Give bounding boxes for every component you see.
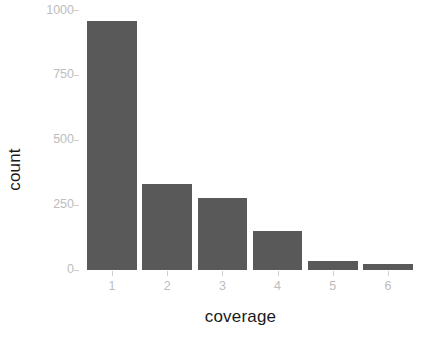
y-tick-label: 250 — [26, 197, 74, 213]
y-axis-title: count — [0, 0, 30, 339]
y-tick-label: 750 — [26, 67, 74, 83]
bar — [142, 184, 192, 270]
x-tick-mark — [222, 271, 223, 276]
x-axis-title: coverage — [60, 305, 421, 329]
plot-panel — [79, 8, 421, 270]
x-tick-label: 3 — [202, 279, 242, 293]
y-tick-label: 0 — [26, 262, 74, 278]
x-tick-mark — [278, 271, 279, 276]
bar-chart: count 02505007501000 123456 coverage — [0, 0, 429, 339]
bar — [363, 264, 413, 270]
x-axis-title-label: coverage — [205, 307, 277, 327]
x-tick-label: 5 — [313, 279, 353, 293]
x-tick-mark — [112, 271, 113, 276]
x-tick-label: 2 — [147, 279, 187, 293]
x-tick-label: 4 — [258, 279, 298, 293]
y-tick-label: 500 — [26, 132, 74, 148]
bar — [87, 21, 137, 270]
y-axis-title-label: count — [5, 148, 25, 191]
x-tick-label: 6 — [368, 279, 408, 293]
bar — [253, 231, 303, 270]
x-tick-label: 1 — [92, 279, 132, 293]
bar — [198, 198, 248, 270]
x-tick-mark — [167, 271, 168, 276]
y-tick-label: 1000 — [26, 3, 74, 19]
x-tick-mark — [388, 271, 389, 276]
x-tick-mark — [333, 271, 334, 276]
bar — [308, 261, 358, 270]
